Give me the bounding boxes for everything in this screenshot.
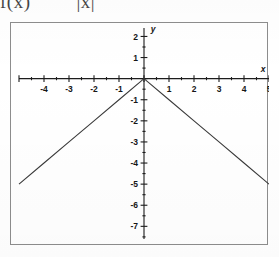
graph-canvas: -4-3-2-11234521-1-2-3-4-5-6-7 xy [11,23,269,246]
x-tick-label: 4 [242,84,247,94]
x-tick-label: 2 [192,84,197,94]
x-tick-label: -3 [65,84,73,94]
x-tick-label: -1 [115,84,123,94]
y-tick-label: 1 [133,53,138,63]
x-tick-label: -4 [40,84,48,94]
x-tick-label: -2 [90,84,98,94]
y-tick-label: 2 [133,32,138,42]
y-tick-label: -6 [130,200,138,210]
y-tick-label: -4 [130,158,138,168]
y-tick-label: -1 [130,95,138,105]
x-tick-label: 5 [267,84,269,94]
tick-label-group: -4-3-2-11234521-1-2-3-4-5-6-7 [40,32,269,232]
y-axis-label: y [150,24,157,34]
axis-name-group: xy [150,24,267,74]
axis-group [19,28,269,239]
y-tick-label: -7 [130,221,138,231]
y-tick-label: -5 [130,179,138,189]
caption-function-label: f(x) [0,0,30,12]
x-tick-label: 3 [217,84,222,94]
x-tick-label: 1 [167,84,172,94]
y-tick-label: -2 [130,116,138,126]
y-tick-label: -3 [130,137,138,147]
plot-frame: -4-3-2-11234521-1-2-3-4-5-6-7 xy [10,22,268,245]
caption-expression-label: |x| [76,0,95,12]
figure-caption: f(x)|x| [0,0,279,14]
figure-caption-text: f(x)|x| [0,0,95,13]
x-axis-label: x [260,64,267,74]
